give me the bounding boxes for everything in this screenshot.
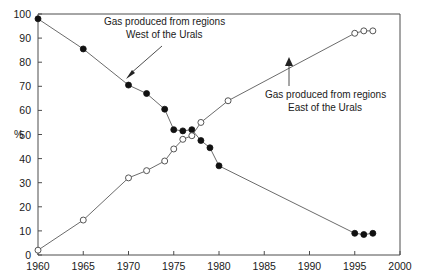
x-axis-tick-labels: 196019651970197519801985199019952000 [26, 260, 412, 272]
x-tick-label-1970: 1970 [117, 260, 141, 272]
data-point [80, 217, 86, 223]
data-point [126, 175, 132, 181]
data-point [198, 119, 204, 125]
x-tick-label-2000: 2000 [388, 260, 412, 272]
data-point [171, 127, 177, 133]
chart-container: 196019651970197519801985199019952000 010… [0, 0, 425, 280]
y-tick-label-40: 40 [19, 153, 31, 165]
data-point [370, 28, 376, 34]
line-chart: 196019651970197519801985199019952000 010… [0, 0, 425, 280]
annotation-west: Gas produced from regions West of the Ur… [104, 16, 225, 40]
data-point [35, 16, 41, 22]
data-point [216, 163, 222, 169]
data-point [162, 158, 168, 164]
data-point [126, 82, 132, 88]
data-point [189, 133, 195, 139]
data-point [80, 46, 86, 52]
x-tick-label-1980: 1980 [207, 260, 231, 272]
data-point [361, 28, 367, 34]
data-point [180, 136, 186, 142]
y-axis-ticks [38, 14, 42, 255]
y-tick-label-70: 70 [19, 80, 31, 92]
x-tick-label-1985: 1985 [253, 260, 277, 272]
series-line-0 [38, 19, 373, 235]
x-tick-label-1990: 1990 [298, 260, 322, 272]
data-point [144, 91, 150, 97]
y-tick-label-0: 0 [25, 249, 31, 261]
west-annotation-leader [130, 46, 162, 74]
series-1 [35, 28, 376, 253]
data-point [207, 145, 213, 151]
y-tick-label-30: 30 [19, 177, 31, 189]
x-tick-label-1975: 1975 [162, 260, 186, 272]
east-annotation-line1: Gas produced from regions [265, 89, 386, 100]
east-annotation-line2: East of the Urals [288, 102, 362, 113]
x-tick-label-1960: 1960 [26, 260, 50, 272]
data-point [198, 138, 204, 144]
y-tick-label-100: 100 [13, 8, 31, 20]
y-tick-label-90: 90 [19, 32, 31, 44]
plot-frame [38, 14, 400, 255]
data-point [171, 146, 177, 152]
west-annotation-line1: Gas produced from regions [104, 16, 225, 27]
data-point [370, 230, 376, 236]
data-series-layer [35, 16, 376, 253]
y-tick-label-80: 80 [19, 56, 31, 68]
data-point [361, 232, 367, 238]
data-point [162, 106, 168, 112]
west-annotation-line2: West of the Urals [126, 29, 203, 40]
y-tick-label-10: 10 [19, 225, 31, 237]
data-point [225, 98, 231, 104]
data-point [180, 128, 186, 134]
data-point [189, 127, 195, 133]
x-axis-ticks [38, 251, 400, 255]
y-tick-label-60: 60 [19, 104, 31, 116]
annotation-east: Gas produced from regions East of the Ur… [265, 89, 386, 113]
east-annotation-arrowhead [285, 57, 293, 66]
data-point [35, 247, 41, 253]
x-tick-label-1965: 1965 [72, 260, 96, 272]
data-point [352, 30, 358, 36]
y-axis-title: % [14, 128, 23, 140]
data-point [144, 168, 150, 174]
data-point [352, 230, 358, 236]
x-tick-label-1995: 1995 [343, 260, 367, 272]
y-tick-label-20: 20 [19, 201, 31, 213]
